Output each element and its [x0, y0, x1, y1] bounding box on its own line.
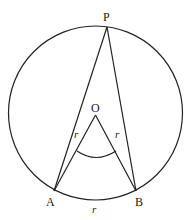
label-OB-length: r: [115, 128, 120, 140]
label-O: O: [91, 101, 100, 115]
segment-OB: [96, 115, 137, 191]
segment-PB: [107, 27, 136, 191]
label-A: A: [46, 195, 55, 209]
label-AB-arc-length: r: [92, 203, 97, 215]
label-B: B: [135, 195, 143, 209]
label-OA-length: r: [74, 128, 79, 140]
circle-geometry-diagram: P O A B r r r: [0, 0, 193, 220]
label-P: P: [103, 10, 110, 24]
angle-AOB-arc: [77, 151, 116, 158]
